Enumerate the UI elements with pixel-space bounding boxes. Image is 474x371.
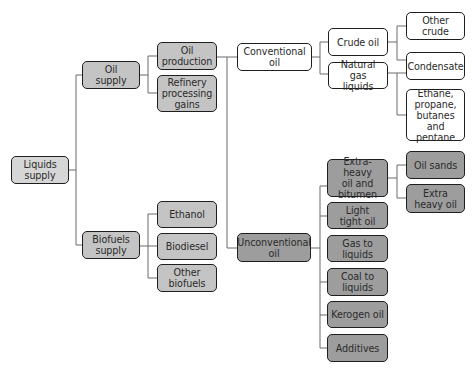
node-other-biofuels: Other biofuels (157, 264, 217, 292)
node-label: Condensate (407, 61, 463, 72)
node-oil-sands: Oil sands (406, 151, 465, 179)
node-label: Extra-heavy oil and bitumen (330, 156, 385, 200)
node-light-tight-oil: Light tight oil (327, 202, 388, 229)
node-label: Unconventional oil (237, 237, 311, 259)
node-label: Oil sands (414, 160, 457, 171)
node-ethanol: Ethanol (157, 201, 217, 228)
node-unconventional-oil: Unconventional oil (237, 233, 311, 262)
node-extra-heavy-oil: Extra heavy oil (406, 184, 465, 213)
node-biofuels-supply: Biofuels supply (82, 231, 140, 259)
node-label: Refinery processing gains (162, 77, 213, 110)
node-label: Additives (336, 343, 379, 354)
node-conventional-oil: Conventional oil (237, 43, 312, 71)
node-label: Gas to liquids (342, 238, 373, 260)
node-label: Ethanol (169, 209, 205, 220)
node-label: Oil supply (95, 64, 126, 86)
node-label: Oil production (162, 45, 213, 67)
node-refinery-processing-gains: Refinery processing gains (157, 75, 217, 112)
node-liquids-supply: Liquids supply (11, 156, 69, 184)
node-condensate: Condensate (406, 52, 465, 80)
node-oil-supply: Oil supply (82, 61, 140, 89)
node-label: Other crude (409, 15, 462, 37)
node-ethane-propane-butanes-pentane: Ethane, propane, butanes and pentane (406, 89, 465, 141)
node-extra-heavy-oil-and-bitumen: Extra-heavy oil and bitumen (327, 159, 388, 197)
node-biodiesel: Biodiesel (157, 233, 217, 260)
node-kerogen-oil: Kerogen oil (327, 301, 388, 328)
node-gas-to-liquids: Gas to liquids (327, 235, 388, 262)
node-label: Crude oil (337, 37, 379, 48)
node-coal-to-liquids: Coal to liquids (327, 268, 388, 296)
node-additives: Additives (327, 334, 388, 362)
node-label: Other biofuels (169, 267, 206, 289)
node-label: Light tight oil (340, 205, 376, 227)
node-oil-production: Oil production (157, 42, 217, 70)
node-label: Natural gas liquids (331, 59, 385, 92)
node-label: Kerogen oil (331, 309, 384, 320)
node-label: Conventional oil (243, 46, 305, 68)
liquids-supply-tree-diagram: Liquids supply Oil supply Biofuels suppl… (0, 0, 474, 371)
node-natural-gas-liquids: Natural gas liquids (328, 62, 388, 89)
node-label: Liquids supply (23, 159, 56, 181)
node-label: Coal to liquids (341, 271, 374, 293)
node-label: Biofuels supply (92, 234, 129, 256)
node-crude-oil: Crude oil (328, 28, 388, 56)
node-label: Extra heavy oil (414, 188, 457, 210)
node-label: Biodiesel (166, 241, 208, 252)
node-other-crude: Other crude (406, 12, 465, 40)
node-label: Ethane, propane, butanes and pentane (409, 88, 462, 143)
